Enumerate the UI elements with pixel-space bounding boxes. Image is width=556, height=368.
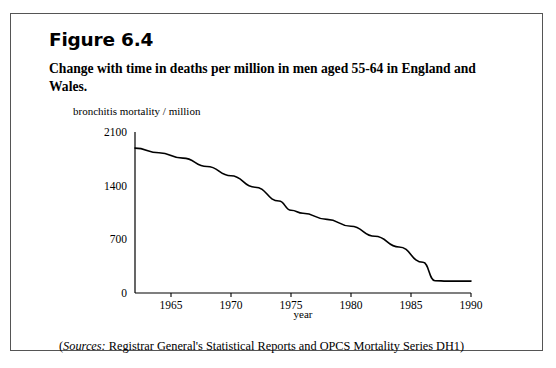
source-label: Sources: — [63, 339, 106, 353]
y-tick-label: 1400 — [104, 180, 127, 192]
x-tick-label: 1980 — [340, 299, 363, 311]
line-chart: bronchitis mortality / million 070014002… — [11, 14, 544, 352]
source-text: Registrar General's Statistical Reports … — [106, 339, 464, 353]
y-tick-label: 0 — [121, 287, 127, 299]
x-tick-label: 1965 — [160, 299, 183, 311]
data-series-line — [135, 148, 471, 281]
figure-frame: Figure 6.4 Change with time in deaths pe… — [10, 13, 543, 351]
y-axis-title: bronchitis mortality / million — [73, 105, 201, 117]
x-tick-label: 1985 — [400, 299, 423, 311]
y-tick-label: 700 — [110, 233, 128, 245]
x-tick-label: 1990 — [460, 299, 483, 311]
chart-plot-area: bronchitis mortality / million 070014002… — [11, 14, 544, 352]
x-tick-labels: 196519701975198019851990 — [160, 299, 483, 311]
source-note: (Sources: Registrar General's Statistica… — [59, 339, 464, 354]
y-tick-labels: 070014002100 — [104, 126, 127, 299]
y-tick-label: 2100 — [104, 126, 127, 138]
x-axis-title: year — [294, 308, 313, 320]
x-tick-label: 1970 — [220, 299, 243, 311]
